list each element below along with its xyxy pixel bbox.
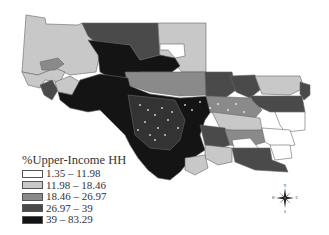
map-region [205,145,232,165]
compass-w-label: W [272,196,276,200]
legend-label: 1.35 – 11.98 [46,168,101,179]
legend-item: 39 – 83.29 [22,214,126,226]
legend-swatch [22,204,43,212]
map-region [230,75,260,98]
legend-label: 18.46 – 26.97 [46,191,107,202]
legend-item: 1.35 – 11.98 [22,168,126,180]
legend-swatch [22,181,43,189]
compass-n-label: N [284,184,287,188]
legend-label: 39 – 83.29 [46,214,93,225]
map-region [255,76,304,95]
legend-item: 18.46 – 26.97 [22,191,126,203]
legend-swatch [22,170,43,178]
legend-label: 11.98 – 18.46 [46,180,106,191]
map-region [185,155,208,175]
legend-title: %Upper-Income HH [22,153,126,167]
compass-e-label: E [295,196,297,200]
compass-rose-icon: N S W E [272,183,298,213]
map-legend: %Upper-Income HH 1.35 – 11.98 11.98 – 18… [22,153,126,226]
map-region [270,145,292,160]
legend-swatch [22,193,43,201]
legend-swatch [22,216,43,224]
legend-label: 26.97 – 39 [46,203,93,214]
compass-s-label: S [284,210,286,214]
